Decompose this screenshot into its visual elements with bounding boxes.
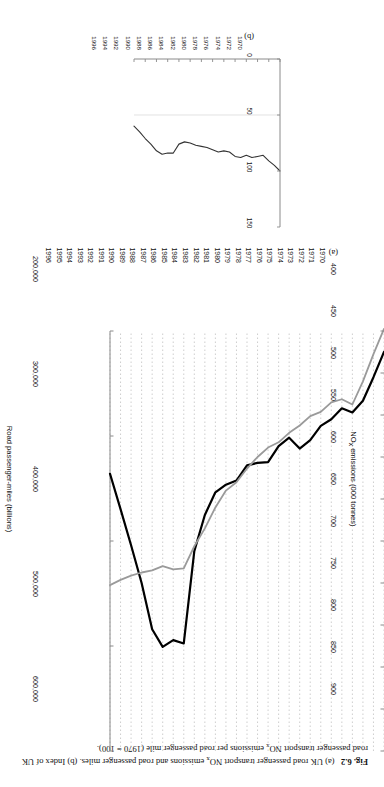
panel-a-xtick-label: 1991 xyxy=(97,247,104,263)
panel-b-xtick-label: 1994 xyxy=(102,36,109,50)
panel-b-xtick-label: 1976 xyxy=(203,36,210,50)
panel-a-y2tick-label: 500,000 xyxy=(31,571,40,597)
panel-a-xtick-label: 1987 xyxy=(139,247,146,263)
panel-a-xtick-label: 1981 xyxy=(203,247,210,263)
panel-b-xtick-label: 1988 xyxy=(135,36,142,50)
panel-a-y2tick-label: 600,000 xyxy=(31,676,40,702)
panel-a-ytick-label: 650 xyxy=(329,473,338,485)
chart-panel-a: (a) 400450500550600650700750800850900NOx… xyxy=(0,246,384,751)
figure-rotated-container: Fig. 6.2 (a) UK road passenger transport… xyxy=(0,0,384,787)
panel-a-xtick-label: 1995 xyxy=(55,247,62,263)
chart-panel-b: (b) 050100150197019721974197619781980198… xyxy=(60,17,280,227)
panel-b-svg xyxy=(134,59,280,227)
panel-b-ytick-label: 100 xyxy=(246,162,253,173)
panel-a-xtick-label: 1975 xyxy=(266,247,273,263)
panel-a-ytick-label: 800 xyxy=(329,599,338,611)
panel-b-xtick-label: 1984 xyxy=(158,36,165,50)
panel-a-svg xyxy=(110,331,384,751)
panel-a-y2-axis-title: Road passenger-miles (billions) xyxy=(5,426,14,532)
panel-a-xtick-label: 1977 xyxy=(245,247,252,263)
panel-a-y-axis-title: NOx emissions (000 tonnes) xyxy=(348,431,358,526)
panel-a-y2tick-label: 300,000 xyxy=(31,361,40,387)
panel-b-xtick-label: 1992 xyxy=(113,36,120,50)
panel-b-xtick-label: 1986 xyxy=(147,36,154,50)
panel-a-y2tick-label: 200,000 xyxy=(31,256,40,282)
panel-a-xtick-label: 1988 xyxy=(129,247,136,263)
panel-a-ytick-label: 850 xyxy=(329,641,338,653)
panel-b-xtick-label: 1982 xyxy=(169,36,176,50)
panel-b-xtick-label: 1974 xyxy=(214,36,221,50)
panel-a-xtick-label: 1979 xyxy=(224,247,231,263)
figure-page: Fig. 6.2 (a) UK road passenger transport… xyxy=(0,0,384,787)
panel-b-identifier: (b) xyxy=(244,32,254,41)
panel-b-xtick-label: 1972 xyxy=(225,36,232,50)
panel-a-xtick-label: 1972 xyxy=(297,247,304,263)
panel-a-ytick-label: 900 xyxy=(329,683,338,695)
panel-a-ytick-label: 400 xyxy=(329,263,338,275)
panel-a-ytick-label: 550 xyxy=(329,389,338,401)
panel-a-ytick-label: 500 xyxy=(329,347,338,359)
panel-a-xtick-label: 1985 xyxy=(160,247,167,263)
panel-a-xtick-label: 1971 xyxy=(308,247,315,263)
panel-a-y-title-rest: emissions (000 tonnes) xyxy=(349,446,358,527)
panel-a-ytick-label: 700 xyxy=(329,515,338,527)
panel-a-plot-area xyxy=(110,331,384,751)
panel-b-plot-area xyxy=(134,59,280,227)
panel-b-ytick-label: 0 xyxy=(246,53,253,57)
panel-a-xtick-label: 1974 xyxy=(276,247,283,263)
panel-a-y-title-main: NO xyxy=(349,431,358,442)
panel-a-xtick-label: 1996 xyxy=(45,247,52,263)
panel-a-xtick-label: 1982 xyxy=(192,247,199,263)
panel-a-xtick-label: 1976 xyxy=(255,247,262,263)
panel-b-ytick-label: 50 xyxy=(246,107,253,114)
panel-b-ytick-label: 150 xyxy=(246,218,253,229)
panel-b-xtick-label: 1970 xyxy=(237,36,244,50)
panel-b-xtick-label: 1996 xyxy=(91,36,98,50)
panel-a-xtick-label: 1983 xyxy=(182,247,189,263)
panel-a-xtick-label: 1994 xyxy=(66,247,73,263)
panel-a-xtick-label: 1978 xyxy=(234,247,241,263)
panel-a-ytick-label: 750 xyxy=(329,557,338,569)
panel-a-xtick-label: 1989 xyxy=(118,247,125,263)
panel-a-xtick-label: 1990 xyxy=(108,247,115,263)
figure-number: Fig. 6.2 xyxy=(341,757,368,767)
panel-a-xtick-label: 1984 xyxy=(171,247,178,263)
panel-a-xtick-label: 1980 xyxy=(213,247,220,263)
panel-a-ytick-label: 450 xyxy=(329,305,338,317)
caption-a-rest: emissions and road passenger miles. xyxy=(79,757,206,767)
caption-part-a: (a) UK road passenger transport NO xyxy=(210,757,335,767)
panel-a-xtick-label: 1986 xyxy=(150,247,157,263)
caption-a-subscript: x xyxy=(206,756,209,763)
panel-a-identifier: (a) xyxy=(329,248,338,257)
panel-a-xtick-label: 1973 xyxy=(287,247,294,263)
panel-a-ytick-label: 600 xyxy=(329,431,338,443)
panel-a-y2tick-label: 400,000 xyxy=(31,466,40,492)
panel-b-xtick-label: 1990 xyxy=(124,36,131,50)
panel-a-xtick-label: 1992 xyxy=(87,247,94,263)
panel-a-xtick-label: 1993 xyxy=(76,247,83,263)
panel-b-xtick-label: 1978 xyxy=(192,36,199,50)
panel-a-xtick-label: 1970 xyxy=(319,247,326,263)
panel-b-xtick-label: 1980 xyxy=(180,36,187,50)
